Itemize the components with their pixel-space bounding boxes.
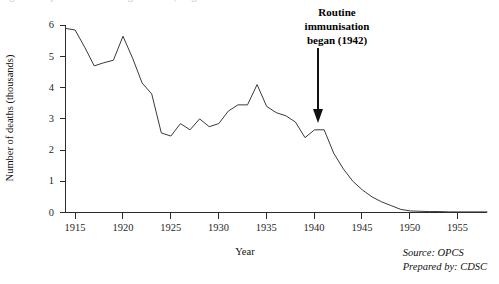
y-axis-title: Number of deaths (thousands) [4,55,15,182]
x-tick-label-1920: 1920 [112,223,133,234]
x-tick-label-1935: 1935 [256,223,277,234]
arrow-head-icon [313,109,323,123]
y-tick-label-4: 4 [38,82,54,93]
chart-figure: Figure 1 Diphtheria: death registrations… [0,0,499,284]
x-tick-label-1940: 1940 [304,223,325,234]
x-tick-label-1930: 1930 [208,223,229,234]
y-tick-label-6: 6 [38,20,54,31]
y-tick-label-1: 1 [38,176,54,187]
y-tick-label-0: 0 [38,207,54,218]
data-series-line [66,28,488,211]
annotation-text-block: Routine immunisation began (1942) [305,6,370,48]
x-tick-label-1950: 1950 [399,223,420,234]
x-axis-ticks [75,213,457,220]
annotation-line-3: began (1942) [305,34,370,48]
annotation-arrow [313,48,323,123]
x-tick-label-1955: 1955 [447,223,468,234]
x-tick-label-1925: 1925 [160,223,181,234]
source-line: Source: OPCS [403,246,487,260]
prepared-by-line: Prepared by: CDSC [403,260,487,274]
y-tick-label-3: 3 [38,114,54,125]
annotation-line-1: Routine [305,6,370,20]
annotation-line-2: immunisation [305,20,370,34]
x-tick-label-1915: 1915 [65,223,86,234]
y-tick-label-2: 2 [38,145,54,156]
x-tick-label-1945: 1945 [351,223,372,234]
y-tick-label-5: 5 [38,51,54,62]
source-credit-block: Source: OPCS Prepared by: CDSC [403,246,487,274]
y-axis-ticks [60,25,66,212]
x-axis-title: Year [235,246,254,257]
chart-plot-area [0,0,499,284]
